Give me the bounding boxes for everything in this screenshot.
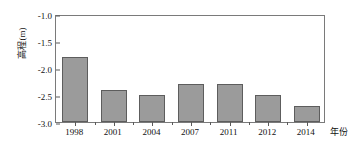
x-minor-tick-mark [133, 122, 134, 125]
bar-series [56, 16, 324, 122]
x-tick-label: 2007 [181, 127, 199, 137]
y-tick-label: -1.5 [38, 39, 52, 48]
y-tick-label: -1.0 [38, 12, 52, 21]
x-tick-mark [191, 122, 192, 126]
bar-2007 [178, 84, 204, 122]
bar-2001 [101, 90, 127, 122]
x-tick-label: 2012 [258, 127, 276, 137]
y-tick-label: -3.0 [38, 120, 52, 129]
x-tick-mark [114, 122, 115, 126]
y-axis-title: 高程(m) [17, 13, 27, 73]
x-tick-label: 2004 [142, 127, 160, 137]
y-tick-mark [56, 124, 60, 125]
x-minor-tick-mark [249, 122, 250, 125]
x-tick-mark [268, 122, 269, 126]
x-axis-title: 年份 [330, 127, 348, 137]
bar-1998 [62, 57, 88, 122]
x-minor-tick-mark [172, 122, 173, 125]
x-tick-label: 1998 [65, 127, 83, 137]
x-tick-mark [230, 122, 231, 126]
x-minor-tick-mark [287, 122, 288, 125]
x-tick-mark [307, 122, 308, 126]
x-tick-label: 2011 [220, 127, 238, 137]
x-tick-label: 2014 [297, 127, 315, 137]
bar-2012 [255, 95, 281, 122]
bar-2011 [217, 84, 243, 122]
bar-2004 [139, 95, 165, 122]
y-tick-label: -2.0 [38, 66, 52, 75]
bar-2014 [294, 106, 320, 122]
x-minor-tick-mark [95, 122, 96, 125]
x-tick-mark [75, 122, 76, 126]
x-tick-mark [152, 122, 153, 126]
plot-area: -1.0-1.5-2.0-2.5-3.0 [55, 15, 325, 123]
y-tick-label: -2.5 [38, 93, 52, 102]
bar-chart-figure: 高程(m) -1.0-1.5-2.0-2.5-3.0 1998200120042… [0, 0, 359, 152]
x-minor-tick-mark [210, 122, 211, 125]
x-tick-label: 2001 [104, 127, 122, 137]
